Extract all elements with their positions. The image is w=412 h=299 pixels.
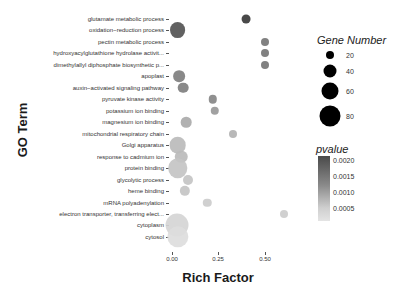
data-point <box>178 83 189 94</box>
y-tick <box>166 30 169 31</box>
y-tick <box>166 42 169 43</box>
y-tick <box>166 19 169 20</box>
x-tick-0 <box>172 252 173 255</box>
x-tick-label: 0.50 <box>259 256 271 262</box>
y-tick <box>166 191 169 192</box>
size-legend-label: 60 <box>346 88 354 95</box>
size-legend-dot-20 <box>326 51 334 59</box>
y-tick <box>166 180 169 181</box>
go-term-label: auxin−activated signaling pathway <box>73 85 164 91</box>
data-point <box>174 70 186 82</box>
data-point <box>261 38 269 46</box>
y-tick <box>166 134 169 135</box>
data-point <box>203 198 211 206</box>
data-point <box>280 210 288 218</box>
go-term-label: mRNA polyadenylation <box>103 200 164 206</box>
data-point <box>229 130 237 138</box>
go-term-label: cytosol <box>145 234 164 240</box>
data-point <box>183 175 193 185</box>
go-term-label: electron transporter, transferring elect… <box>59 211 164 217</box>
y-tick <box>166 111 169 112</box>
colorbar-tick-label: 0.0005 <box>333 205 354 212</box>
y-axis-label: GO Term <box>15 103 30 158</box>
y-tick <box>166 157 169 158</box>
x-axis-label: Rich Factor <box>182 270 254 285</box>
go-term-label: glutamate metabolic process <box>88 16 164 22</box>
x-tick-1 <box>218 252 219 255</box>
y-tick <box>166 122 169 123</box>
y-tick <box>166 53 169 54</box>
data-point <box>242 15 251 24</box>
go-term-label: dimethylallyl diphosphate biosynthetic p… <box>54 62 164 68</box>
go-term-label: potassium ion binding <box>106 108 164 114</box>
go-term-label: protein binding <box>125 165 164 171</box>
y-tick <box>166 88 169 89</box>
go-term-label: pyruvate kinase activity <box>102 96 164 102</box>
size-legend-dot-40 <box>324 65 337 78</box>
size-legend-dot-80 <box>320 106 341 127</box>
y-tick <box>166 65 169 66</box>
y-tick <box>166 99 169 100</box>
go-term-label: cytoplasm <box>137 222 164 228</box>
colorbar-tick-label: 0.0010 <box>333 189 354 196</box>
data-point <box>211 107 219 115</box>
x-tick-label: 0.00 <box>166 256 178 262</box>
size-legend-label: 20 <box>346 52 354 59</box>
data-point <box>180 186 190 196</box>
size-legend-dot-60 <box>322 83 339 100</box>
size-legend-title: Gene Number <box>317 34 386 46</box>
colorbar-tick-label: 0.0015 <box>333 173 354 180</box>
y-tick <box>166 203 169 204</box>
go-term-label: mitochondrial respiratory chain <box>82 131 164 137</box>
go-term-label: magnesium ion binding <box>102 119 164 125</box>
x-tick-2 <box>265 252 266 255</box>
y-tick <box>166 76 169 77</box>
go-term-label: heme binding <box>128 188 164 194</box>
go-term-label: response to cadmium ion <box>97 154 164 160</box>
go-term-label: oxidation−reduction process <box>89 27 164 33</box>
data-point <box>261 49 269 57</box>
size-legend-label: 40 <box>346 68 354 75</box>
size-legend-label: 80 <box>346 113 354 120</box>
data-point <box>167 226 188 247</box>
go-term-label: hydroxyacylglutathione hydrolase activit… <box>53 50 164 56</box>
go-term-label: pectin metabolic process <box>98 39 164 45</box>
x-tick-label: 0.25 <box>212 256 224 262</box>
colorbar-tick-label: 0.0020 <box>333 157 354 164</box>
go-term-label: Golgi apparatus <box>122 142 164 148</box>
go-term-label: glycolytic process <box>117 177 164 183</box>
data-point <box>181 117 192 128</box>
data-point <box>209 95 217 103</box>
data-point <box>170 23 186 39</box>
go-term-label: apoplast <box>141 73 164 79</box>
color-legend-title: pvalue <box>316 143 348 155</box>
pvalue-colorbar <box>318 156 330 221</box>
data-point <box>261 61 269 69</box>
y-tick <box>166 214 169 215</box>
